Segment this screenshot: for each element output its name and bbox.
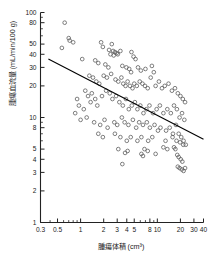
svg-text:10: 10 [29,114,37,121]
svg-text:4: 4 [33,156,37,163]
svg-text:5: 5 [33,145,37,152]
svg-text:2: 2 [33,187,37,194]
svg-text:0.3: 0.3 [36,226,45,233]
svg-text:8: 8 [148,226,152,233]
scatter-plot: 1234581020304050801000.30.51234581020304… [0,0,215,262]
svg-text:40: 40 [29,51,37,58]
svg-text:4: 4 [125,226,129,233]
svg-text:2: 2 [102,226,106,233]
svg-text:40: 40 [200,226,208,233]
svg-text:20: 20 [177,226,185,233]
svg-text:3: 3 [33,169,37,176]
svg-text:30: 30 [29,64,37,71]
axis-tick-labels: 1234581020304050801000.30.51234581020304… [25,9,207,233]
svg-text:3: 3 [115,226,119,233]
svg-text:5: 5 [132,226,136,233]
regression-line [48,59,203,139]
svg-text:20: 20 [29,82,37,89]
svg-text:8: 8 [33,124,37,131]
data-points [60,21,188,173]
chart-figure: 腫瘍血流量 (mL/min/100 g) 腫瘍体積 (cm³) 12345810… [0,0,215,262]
svg-text:100: 100 [25,9,36,16]
svg-text:50: 50 [29,40,37,47]
svg-text:0.5: 0.5 [53,226,62,233]
axis-ticks [41,13,204,223]
svg-text:30: 30 [190,226,198,233]
svg-text:1: 1 [79,226,83,233]
axes [41,13,204,223]
svg-text:10: 10 [154,226,162,233]
svg-text:80: 80 [29,19,37,26]
